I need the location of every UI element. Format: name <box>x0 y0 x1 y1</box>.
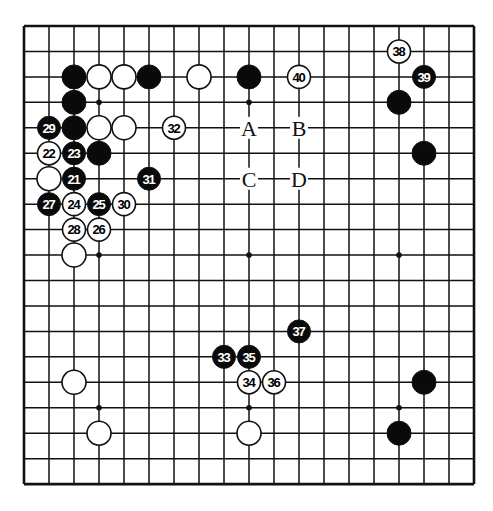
white-stone <box>87 116 111 140</box>
star-point-icon <box>246 252 252 258</box>
stone-icon <box>62 65 86 89</box>
move-number: 37 <box>292 324 305 339</box>
white-stone-24: 24 <box>63 193 86 216</box>
white-stone <box>87 65 111 89</box>
stone-icon <box>387 421 411 445</box>
white-stone-38: 38 <box>388 40 411 63</box>
marker-a: A <box>240 116 258 141</box>
black-stone-35: 35 <box>238 345 261 368</box>
stone-icon <box>187 65 211 89</box>
black-stone <box>62 65 86 89</box>
black-stone-31: 31 <box>138 167 161 190</box>
star-point-icon <box>396 252 402 258</box>
move-number: 31 <box>142 172 155 187</box>
stone-icon <box>62 90 86 114</box>
star-point-icon <box>246 100 252 106</box>
black-stone-23: 23 <box>63 142 86 165</box>
black-stone <box>412 141 436 165</box>
white-stone <box>62 243 86 267</box>
black-stone-39: 39 <box>413 65 436 88</box>
stone-icon <box>112 116 136 140</box>
move-number: 39 <box>417 70 430 85</box>
move-number: 33 <box>217 350 230 365</box>
white-stone <box>187 65 211 89</box>
move-number: 27 <box>42 197 55 212</box>
stone-icon <box>237 421 261 445</box>
marker-label: C <box>242 167 257 192</box>
stone-icon <box>412 141 436 165</box>
black-stone-37: 37 <box>288 320 311 343</box>
white-stone <box>237 421 261 445</box>
black-stone <box>87 141 111 165</box>
move-number: 28 <box>67 222 80 237</box>
white-stone-32: 32 <box>163 116 186 139</box>
star-point-icon <box>96 405 102 411</box>
star-point-icon <box>96 252 102 258</box>
star-point-icon <box>396 405 402 411</box>
black-stone <box>137 65 161 89</box>
black-stone <box>237 65 261 89</box>
marker-label: D <box>291 167 307 192</box>
stone-icon <box>237 65 261 89</box>
black-stone-25: 25 <box>88 193 111 216</box>
stone-icon <box>62 116 86 140</box>
white-stone <box>112 65 136 89</box>
move-number: 22 <box>42 146 55 161</box>
star-point-icon <box>246 405 252 411</box>
black-stone-29: 29 <box>38 116 61 139</box>
move-number: 25 <box>92 197 105 212</box>
stone-icon <box>62 370 86 394</box>
marker-d: D <box>290 167 308 192</box>
move-number: 36 <box>267 375 280 390</box>
move-number: 30 <box>117 197 130 212</box>
go-board-diagram: ABCD 21222324252627282930313233343536373… <box>0 0 493 511</box>
move-number: 38 <box>392 44 405 59</box>
white-stone <box>62 370 86 394</box>
stone-icon <box>87 65 111 89</box>
white-stone <box>87 421 111 445</box>
move-number: 40 <box>292 70 305 85</box>
stone-icon <box>62 243 86 267</box>
stone-icon <box>387 90 411 114</box>
stone-icon <box>412 370 436 394</box>
white-stone <box>37 167 61 191</box>
black-stone-33: 33 <box>213 345 236 368</box>
black-stone <box>412 370 436 394</box>
white-stone-40: 40 <box>288 65 311 88</box>
move-number: 21 <box>67 172 80 187</box>
stone-icon <box>137 65 161 89</box>
stone-icon <box>37 167 61 191</box>
white-stone-34: 34 <box>238 371 261 394</box>
marker-c: C <box>240 167 258 192</box>
star-point-icon <box>96 100 102 106</box>
stone-icon <box>87 421 111 445</box>
black-stone-27: 27 <box>38 193 61 216</box>
move-number: 24 <box>67 197 81 212</box>
black-stone-21: 21 <box>63 167 86 190</box>
stone-icon <box>87 141 111 165</box>
black-stone <box>387 90 411 114</box>
stone-icon <box>87 116 111 140</box>
black-stone <box>387 421 411 445</box>
stone-icon <box>112 65 136 89</box>
marker-label: A <box>241 116 257 141</box>
marker-b: B <box>290 116 308 141</box>
white-stone <box>112 116 136 140</box>
white-stone-26: 26 <box>88 218 111 241</box>
black-stone <box>62 90 86 114</box>
move-number: 32 <box>167 121 180 136</box>
white-stone-36: 36 <box>263 371 286 394</box>
move-number: 29 <box>42 121 55 136</box>
move-number: 23 <box>67 146 80 161</box>
marker-label: B <box>292 116 307 141</box>
white-stone-22: 22 <box>38 142 61 165</box>
move-number: 35 <box>242 350 255 365</box>
white-stone-28: 28 <box>63 218 86 241</box>
move-number: 34 <box>242 375 256 390</box>
white-stone-30: 30 <box>113 193 136 216</box>
black-stone <box>62 116 86 140</box>
move-number: 26 <box>92 222 105 237</box>
